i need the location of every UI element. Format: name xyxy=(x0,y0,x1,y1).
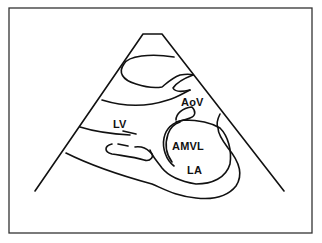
papillary-muscle xyxy=(106,144,152,160)
label-la: LA xyxy=(187,165,202,176)
label-amvl: AMVL xyxy=(172,141,204,152)
interventricular-septum xyxy=(102,90,190,105)
lv-label-pointer xyxy=(123,131,136,134)
echo-diagram-figure: AoV LV AMVL LA xyxy=(0,0,322,243)
ultrasound-sector-outline xyxy=(35,34,284,191)
chordae-dash-1 xyxy=(118,144,128,146)
echo-diagram-svg xyxy=(0,0,322,243)
label-aov: AoV xyxy=(181,97,204,108)
label-lv: LV xyxy=(113,119,127,130)
figure-frame xyxy=(9,8,312,233)
